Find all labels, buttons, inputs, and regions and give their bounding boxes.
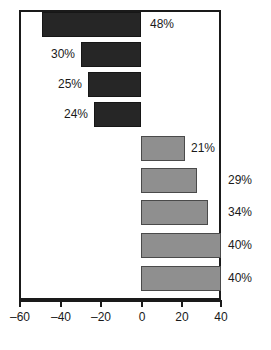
x-axis-line [19,300,221,302]
x-tick-label-0: 0 [139,311,146,324]
diverging-bar-chart: 48% 30% 25% 24% 21% 29% 34% 40% 40% –60 … [0,0,271,350]
x-tick-label-neg40: –40 [51,311,71,324]
x-tick-mark-neg20 [100,300,102,307]
x-tick-mark-neg40 [60,300,62,307]
bar-label-1: 48% [150,18,174,30]
x-tick-mark-neg60 [19,300,21,307]
bar-negative-4 [94,102,141,127]
bar-positive-3 [141,200,208,225]
bar-negative-2 [81,42,141,67]
bar-label-3: 25% [35,78,82,90]
bar-label-4: 24% [41,108,88,120]
x-tick-label-neg20: –20 [91,311,111,324]
x-tick-mark-20 [181,300,183,307]
x-tick-label-20: 20 [175,311,188,324]
bar-label-5: 21% [191,142,215,154]
x-tick-mark-40 [220,300,222,307]
bar-positive-1 [141,136,185,161]
x-tick-label-40: 40 [214,311,227,324]
bar-label-9: 40% [228,272,252,284]
bar-label-8: 40% [228,239,252,251]
bar-positive-5 [141,266,221,291]
bar-positive-2 [141,168,197,193]
bar-label-2: 30% [28,48,75,60]
bar-label-6: 29% [228,174,252,186]
bar-label-7: 34% [228,206,252,218]
x-tick-label-neg60: –60 [10,311,30,324]
bar-negative-1 [42,12,141,37]
bar-positive-4 [141,233,221,258]
x-tick-mark-0 [141,300,143,307]
bar-negative-3 [88,72,141,97]
